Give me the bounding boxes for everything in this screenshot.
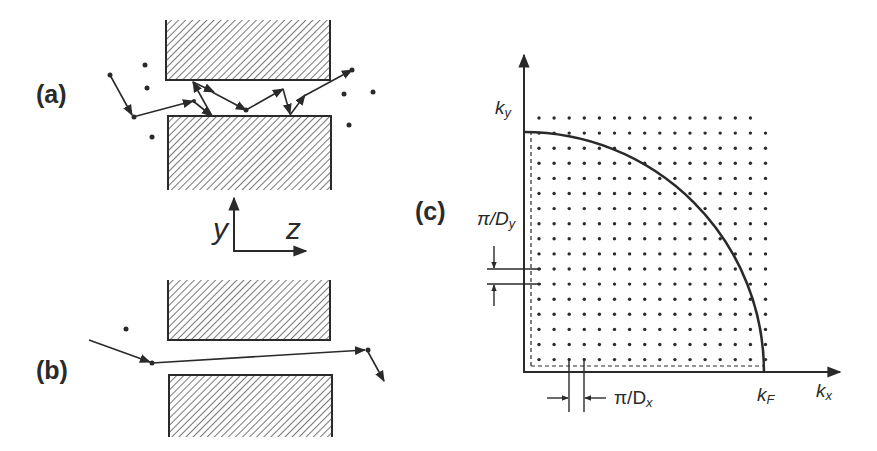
ky-main: k — [495, 97, 505, 118]
dx-main: π/D — [614, 387, 646, 408]
kx-sub: x — [826, 388, 832, 403]
upper-plate-a — [166, 20, 330, 80]
ky-sub: y — [505, 105, 511, 120]
panel-label-c: (c) — [415, 199, 446, 224]
panel-a — [108, 20, 376, 190]
dy-spacing-marker — [487, 246, 541, 306]
kf-sub: F — [767, 392, 775, 407]
panel-label-a: (a) — [36, 82, 67, 107]
kf-main: k — [757, 384, 767, 405]
fermi-circle — [524, 132, 764, 372]
y-axis-label: y — [213, 214, 228, 244]
dx-spacing-label: π/Dx — [614, 388, 653, 410]
upper-plate-b — [168, 280, 330, 340]
lower-plate-a — [168, 116, 331, 190]
lower-plate-b — [169, 375, 332, 437]
panel-c — [487, 55, 840, 412]
kx-axis-label: kx — [816, 381, 832, 403]
dy-spacing-label: π/Dy — [477, 209, 515, 231]
panel-b — [89, 280, 384, 437]
dy-sub: y — [509, 216, 515, 231]
k-lattice-dots — [537, 116, 767, 361]
panel-label-b: (b) — [36, 358, 68, 383]
kf-label: kF — [757, 385, 774, 407]
dy-main: π/D — [477, 208, 509, 229]
diagram-canvas — [0, 0, 877, 451]
dx-sub: x — [646, 395, 652, 410]
particle-b — [124, 327, 129, 332]
kx-main: k — [816, 380, 826, 401]
z-axis-label: z — [286, 214, 301, 244]
ky-axis-label: ky — [495, 98, 511, 120]
